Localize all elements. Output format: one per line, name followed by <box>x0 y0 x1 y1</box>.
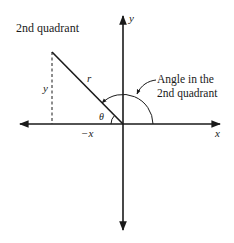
quadrant-title: 2nd quadrant <box>16 21 80 35</box>
annotation-line-1: Angle in the <box>157 73 214 86</box>
theta-label: θ <box>99 111 104 122</box>
neg-x-label: −x <box>81 127 93 139</box>
angle-arc <box>102 94 153 124</box>
x-axis-label: x <box>214 127 220 139</box>
annotation-line-2: 2nd quadrant <box>157 87 218 100</box>
annotation-leader <box>137 80 156 94</box>
radius-line <box>52 52 123 124</box>
coordinate-diagram: 2nd quadrant y x −x y r θ Angle in the 2… <box>0 0 234 243</box>
theta-arc <box>111 115 115 124</box>
y-leg-label: y <box>42 82 48 94</box>
radius-label: r <box>87 72 92 84</box>
y-axis-label: y <box>128 12 134 24</box>
